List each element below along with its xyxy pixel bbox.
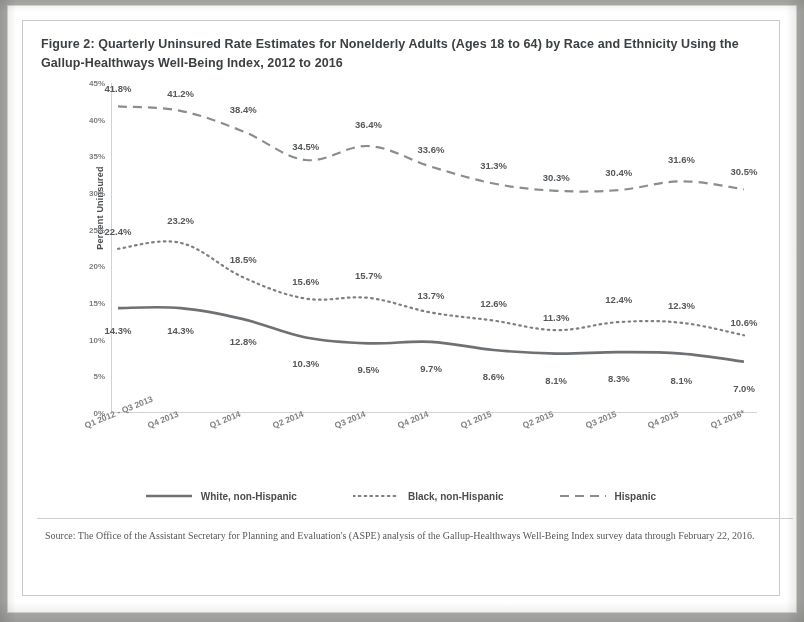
data-point-label: 41.8% bbox=[105, 83, 132, 94]
data-point-label: 34.5% bbox=[292, 141, 319, 152]
data-point-label: 23.2% bbox=[167, 214, 194, 225]
y-axis-tick-label: 5% bbox=[93, 372, 105, 381]
data-point-label: 18.5% bbox=[230, 254, 257, 265]
series-line-1 bbox=[118, 307, 744, 361]
data-point-label: 8.3% bbox=[608, 373, 630, 384]
data-point-label: 8.1% bbox=[545, 374, 567, 385]
y-axis-tick-label: 10% bbox=[89, 335, 105, 344]
legend-item[interactable]: Hispanic bbox=[560, 491, 657, 502]
source-note: Source: The Office of the Assistant Secr… bbox=[37, 528, 793, 543]
data-point-label: 38.4% bbox=[230, 104, 257, 115]
data-point-label: 15.7% bbox=[355, 269, 382, 280]
figure-title: Figure 2: Quarterly Uninsured Rate Estim… bbox=[41, 35, 761, 73]
data-point-label: 12.6% bbox=[480, 297, 507, 308]
data-point-label: 13.7% bbox=[418, 289, 445, 300]
legend-label: Hispanic bbox=[615, 491, 657, 502]
data-point-label: 31.3% bbox=[480, 160, 507, 171]
legend-label: White, non-Hispanic bbox=[201, 491, 297, 502]
data-point-label: 10.3% bbox=[292, 358, 319, 369]
data-point-label: 31.6% bbox=[668, 154, 695, 165]
data-point-label: 12.3% bbox=[668, 299, 695, 310]
figure-card: Figure 2: Quarterly Uninsured Rate Estim… bbox=[22, 20, 780, 596]
chart-legend: White, non-HispanicBlack, non-HispanicHi… bbox=[41, 476, 761, 516]
legend-label: Black, non-Hispanic bbox=[408, 491, 504, 502]
data-point-label: 9.7% bbox=[420, 362, 442, 373]
paper-sheet: Figure 2: Quarterly Uninsured Rate Estim… bbox=[8, 6, 796, 612]
legend-item[interactable]: White, non-Hispanic bbox=[146, 491, 297, 502]
y-axis-ticks: 0%5%10%15%20%25%30%35%40%45% bbox=[65, 83, 109, 413]
y-axis-tick-label: 15% bbox=[89, 299, 105, 308]
data-point-label: 15.6% bbox=[292, 275, 319, 286]
data-point-label: 22.4% bbox=[105, 225, 132, 236]
chart-area: Percent Uninsured 0%5%10%15%20%25%30%35%… bbox=[41, 83, 761, 473]
data-point-label: 7.0% bbox=[733, 382, 755, 393]
source-note-wrap: Source: The Office of the Assistant Secr… bbox=[37, 518, 793, 543]
data-point-label: 30.4% bbox=[605, 167, 632, 178]
data-point-label: 14.3% bbox=[167, 325, 194, 336]
data-point-label: 36.4% bbox=[355, 119, 382, 130]
data-point-label: 11.3% bbox=[543, 312, 569, 323]
plot-area: 14.3%14.3%12.8%10.3%9.5%9.7%8.6%8.1%8.3%… bbox=[111, 83, 757, 413]
data-point-label: 30.5% bbox=[731, 166, 758, 177]
legend-line-swatch bbox=[146, 491, 192, 501]
data-point-label: 9.5% bbox=[358, 364, 380, 375]
data-point-label: 33.6% bbox=[418, 143, 445, 154]
legend-item[interactable]: Black, non-Hispanic bbox=[353, 491, 504, 502]
data-point-label: 41.2% bbox=[167, 87, 194, 98]
y-axis-tick-label: 45% bbox=[89, 79, 105, 88]
y-axis-tick-label: 40% bbox=[89, 115, 105, 124]
y-axis-tick-label: 20% bbox=[89, 262, 105, 271]
data-point-label: 12.8% bbox=[230, 336, 257, 347]
data-point-label: 10.6% bbox=[731, 317, 758, 328]
figure-screenshot: Figure 2: Quarterly Uninsured Rate Estim… bbox=[0, 0, 804, 622]
y-axis-tick-label: 25% bbox=[89, 225, 105, 234]
data-point-label: 8.6% bbox=[483, 370, 505, 381]
data-point-label: 8.1% bbox=[671, 374, 693, 385]
data-point-label: 12.4% bbox=[605, 294, 632, 305]
y-axis-tick-label: 30% bbox=[89, 189, 105, 198]
legend-line-swatch bbox=[560, 491, 606, 501]
x-axis-ticks: Q1 2012 - Q3 2013Q4 2013Q1 2014Q2 2014Q3… bbox=[111, 415, 757, 473]
legend-line-swatch bbox=[353, 491, 399, 501]
data-point-label: 14.3% bbox=[105, 325, 132, 336]
data-point-label: 30.3% bbox=[543, 171, 570, 182]
y-axis-tick-label: 35% bbox=[89, 152, 105, 161]
